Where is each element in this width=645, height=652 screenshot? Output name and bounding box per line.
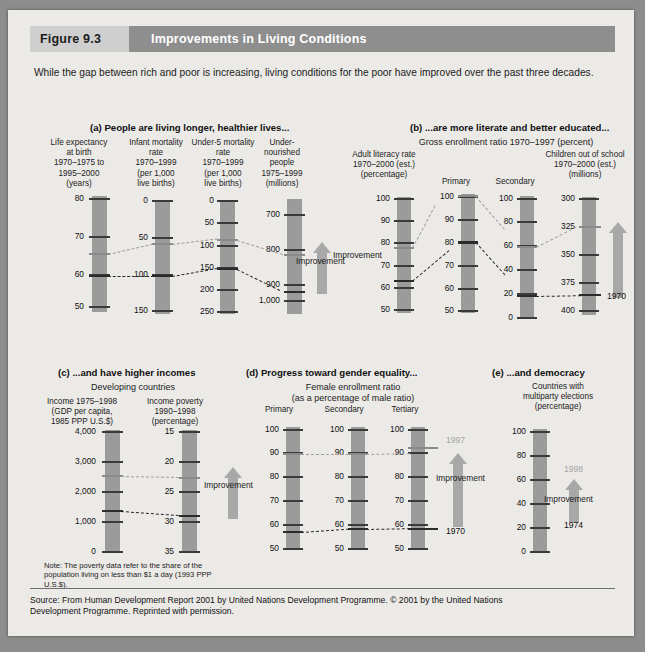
- tick-label: 100: [316, 424, 344, 434]
- tick: [394, 198, 414, 200]
- figure-subtitle: While the gap between rich and poor is i…: [34, 67, 614, 78]
- marker-earlier: [152, 275, 173, 277]
- marker-recent: [408, 447, 438, 449]
- figure-header: Figure 9.3 Improvements in Living Condit…: [30, 26, 615, 52]
- tick-label: 20: [484, 288, 513, 298]
- tick-label: 70: [251, 495, 279, 505]
- panel-b-subtitle: Gross enrollment ratio 1970–1997 (percen…: [391, 137, 621, 147]
- tick: [102, 491, 123, 493]
- tick: [102, 431, 123, 433]
- panel-b-col4-head: Children out of school1970–2000 (est.)(m…: [533, 150, 634, 181]
- tick-label: 60: [498, 474, 526, 484]
- tick: [152, 310, 173, 312]
- tick: [394, 287, 414, 289]
- tick: [408, 476, 428, 478]
- tick: [283, 548, 303, 550]
- tick-label: 25: [148, 486, 174, 496]
- tick-label: 60: [424, 283, 454, 293]
- marker-recent: [102, 475, 123, 477]
- panel-c-col1-head: Income 1975–1998(GDP per capita,1985 PPP…: [36, 397, 128, 428]
- tick-label: 50: [424, 305, 454, 315]
- tick-label: 100: [251, 424, 279, 434]
- tick: [517, 221, 537, 223]
- tick-label: 0: [58, 546, 96, 556]
- tick-label: 400: [544, 305, 575, 315]
- tick-label: 70: [316, 495, 344, 505]
- tick: [458, 288, 478, 290]
- connector-light: [108, 244, 153, 255]
- tick-label: 350: [544, 249, 575, 259]
- tick: [408, 452, 428, 454]
- tick: [579, 198, 599, 200]
- tick: [152, 200, 173, 202]
- connector-light: [301, 454, 349, 455]
- marker-earlier: [408, 528, 438, 530]
- panel-a-col2-bar: [155, 200, 170, 314]
- tick-label: 60: [360, 282, 390, 292]
- panel-a-title: (a) People are living longer, healthier …: [90, 122, 289, 133]
- tick: [408, 429, 428, 431]
- panel-c-title: (c) ...and have higher incomes: [58, 367, 196, 378]
- tick: [458, 265, 478, 267]
- tick-label: 70: [360, 260, 390, 270]
- tick-label: 50: [316, 543, 344, 553]
- tick: [283, 524, 303, 526]
- panel-d-col2-bar: [351, 427, 365, 549]
- tick: [284, 249, 305, 251]
- marker-earlier: [102, 510, 123, 512]
- tick-label: 700: [248, 209, 280, 219]
- tick: [530, 479, 550, 481]
- panel-b-col1-bar: [397, 197, 411, 313]
- tick-label: 100: [498, 426, 526, 436]
- panel-d-subtitle: Female enrollment ratio(as a percentage …: [258, 382, 448, 403]
- marker-recent: [179, 477, 200, 479]
- tick: [217, 245, 238, 247]
- tick-label: 20: [498, 522, 526, 532]
- panel-e-year-top: 1998: [564, 464, 583, 474]
- tick: [408, 500, 428, 502]
- tick-label: 50: [56, 301, 84, 311]
- tick: [394, 309, 414, 311]
- tick: [283, 476, 303, 478]
- panel-c-col2-head: Income poverty1990–1998(percentage): [134, 397, 216, 428]
- panel-b-col2-head: Primary: [428, 177, 484, 187]
- tick: [89, 198, 110, 200]
- tick: [284, 300, 305, 302]
- connector-dark: [536, 295, 581, 297]
- tick: [394, 265, 414, 267]
- tick-label: 50: [376, 543, 404, 553]
- tick-label: 375: [544, 277, 575, 287]
- tick: [517, 198, 537, 200]
- tick: [152, 237, 173, 239]
- tick-label: 60: [484, 240, 513, 250]
- tick: [89, 236, 110, 238]
- source-note: Source: From Human Development Report 20…: [30, 595, 530, 617]
- tick-label: 80: [424, 237, 454, 247]
- tick-label: 80: [251, 471, 279, 481]
- tick-label: 60: [316, 519, 344, 529]
- figure-number: Figure 9.3: [30, 26, 129, 52]
- tick: [394, 220, 414, 222]
- tick: [348, 476, 368, 478]
- panel-b-col4-bar: [582, 197, 596, 315]
- tick: [284, 214, 305, 216]
- marker-earlier: [517, 295, 537, 297]
- tick: [102, 551, 123, 553]
- tick-label: 90: [360, 215, 390, 225]
- panel-d-col1-head: Primary: [254, 405, 304, 415]
- panel-d-col3-head: Tertiary: [380, 405, 430, 415]
- marker-earlier: [217, 268, 238, 270]
- tick-label: 100: [120, 269, 148, 279]
- tick-label: 80: [360, 237, 390, 247]
- tick-label: 80: [56, 193, 84, 203]
- tick-label: 15: [148, 426, 174, 436]
- panel-e-year-bottom: 1974: [564, 520, 583, 530]
- connector-dark: [366, 528, 410, 530]
- tick-label: 70: [424, 260, 454, 270]
- panel-c-subtitle: Developing countries: [68, 382, 198, 392]
- panel-b-improvement-arrow: [608, 222, 628, 298]
- panel-d-improvement-label: Improvement: [436, 473, 485, 483]
- tick-label: 150: [120, 305, 148, 315]
- figure-title: Improvements in Living Conditions: [129, 26, 615, 52]
- panel-a-col4-head: Under-nourishedpeople1975–1999(millions): [251, 138, 313, 189]
